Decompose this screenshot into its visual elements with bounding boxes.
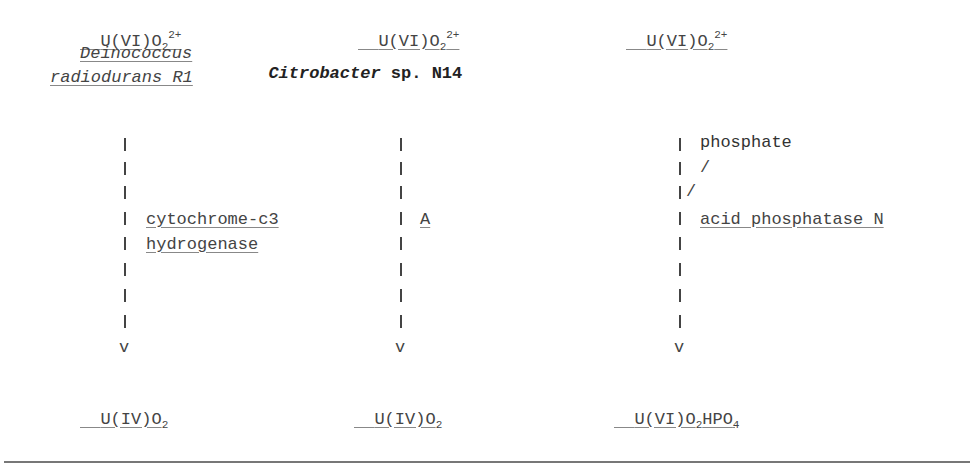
arrow-shaft-segment (679, 263, 681, 276)
arrow-shaft-segment (679, 212, 681, 225)
organism-strain: sp. N14 (381, 64, 463, 83)
cofactor-connector-upper: / (700, 158, 710, 178)
arrow-shaft-segment (679, 138, 681, 151)
arrow-shaft-segment (400, 186, 402, 199)
enzyme-acid-phosphatase-n: acid phosphatase N (700, 210, 884, 230)
organism-name: radiodurans R1 (50, 68, 193, 87)
organism-genus: Citrobacter (268, 64, 380, 83)
organism-deinococcus-line1: Deinococcus (80, 44, 192, 64)
arrow-shaft-segment (400, 138, 402, 151)
formula-base: U(VI)O (634, 410, 695, 429)
formula-base: U(VI)O (646, 32, 707, 51)
organism-citrobacter: Citrobacter sp. N14 (248, 44, 462, 84)
formula-subscript: 2 (708, 41, 715, 53)
formula-subscript: 2 (436, 419, 443, 431)
arrow-shaft-segment (124, 212, 126, 225)
arrow-shaft-segment (400, 315, 402, 328)
arrow-shaft-segment (124, 315, 126, 328)
formula-base: U(IV)O (374, 410, 435, 429)
arrow-shaft-segment (124, 263, 126, 276)
arrow-shaft-segment (679, 315, 681, 328)
formula-charge: 2+ (168, 29, 181, 41)
cofactor-phosphate: phosphate (700, 133, 792, 153)
arrow-shaft-segment (400, 237, 402, 250)
product-uranyl-hydrogen-phosphate: U(VI)O2HPO4 (614, 390, 739, 430)
arrow-shaft-segment (124, 162, 126, 175)
product-uranium-dioxide-col2: U(IV)O2 (354, 390, 442, 430)
arrow-shaft-segment (124, 237, 126, 250)
arrow-shaft-segment (679, 186, 681, 199)
formula-charge: 2+ (446, 29, 459, 41)
arrow-shaft-segment (124, 138, 126, 151)
arrow-head-icon: v (119, 338, 129, 358)
arrow-shaft-segment (124, 289, 126, 302)
cofactor-connector-lower: / (686, 182, 696, 202)
formula-charge: 2+ (714, 29, 727, 41)
arrow-shaft-segment (679, 237, 681, 250)
arrow-shaft-segment (124, 186, 126, 199)
arrow-shaft-segment (400, 289, 402, 302)
organism-deinococcus-line2: radiodurans R1 (50, 68, 193, 88)
arrow-shaft-segment (679, 162, 681, 175)
substrate-uranyl-col3: U(VI)O22+ (626, 12, 727, 52)
formula-base: HPO (702, 410, 733, 429)
enzyme-cytochrome-c3: cytochrome-c3 (146, 210, 279, 230)
arrow-shaft-segment (400, 263, 402, 276)
formula-subscript: 2 (162, 419, 169, 431)
horizontal-divider (4, 461, 970, 463)
enzyme-hydrogenase: hydrogenase (146, 235, 258, 255)
formula-base: U(IV)O (100, 410, 161, 429)
arrow-shaft-segment (400, 212, 402, 225)
arrow-head-icon: v (395, 338, 405, 358)
arrow-shaft-segment (400, 162, 402, 175)
arrow-shaft-segment (679, 289, 681, 302)
product-uranium-dioxide-col1: U(IV)O2 (80, 390, 168, 430)
formula-subscript: 4 (733, 419, 740, 431)
enzyme-a: A (420, 210, 430, 230)
arrow-head-icon: v (674, 338, 684, 358)
